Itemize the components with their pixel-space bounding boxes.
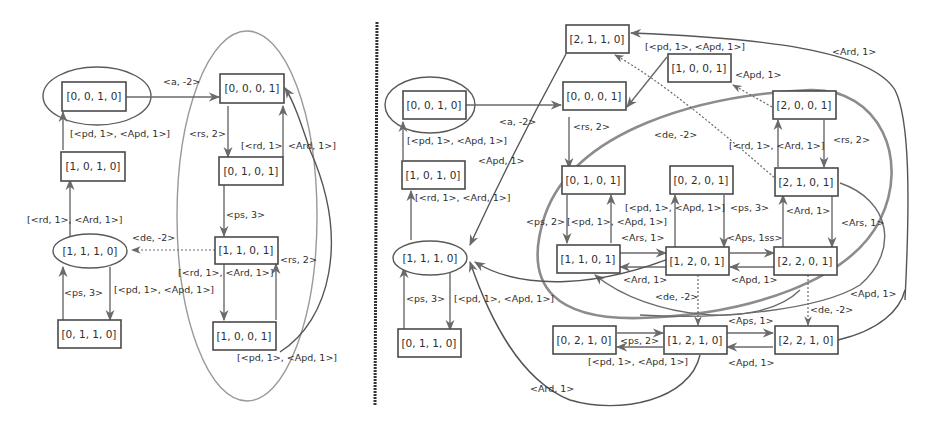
node-1001: [1, 0, 0, 1] [213,322,276,350]
node-1101-right: [1, 1, 0, 1] [557,245,620,273]
node-label: [2, 2, 0, 1] [778,255,833,267]
edge-label: <Apd, 1> [735,69,782,80]
node-0010: [0, 0, 1, 0] [62,82,126,111]
node-label: [1, 0, 0, 1] [217,330,272,342]
right-graph: [2, 1, 1, 0] [0, 0, 1, 0] [0, 0, 0, 1] [… [385,25,908,406]
node-0201: [0, 2, 0, 1] [670,166,733,194]
node-label: [2, 1, 1, 0] [570,33,625,45]
node-0101: [0, 1, 0, 1] [219,157,283,185]
edge-label: <de, -2> [655,291,698,302]
edge-label: <Ars, 1> [621,232,664,243]
node-0110-right: [0, 1, 1, 0] [398,329,461,357]
node-1010: [1, 0, 1, 0] [61,152,125,181]
edge-label: <ps, 2> [620,335,659,346]
edge-label: [<rd, 1> [241,140,282,151]
left-graph: [0, 0, 1, 0] [0, 0, 0, 1] [1, 0, 1, 0] [… [27,31,337,401]
node-0001-right: [0, 0, 0, 1] [563,82,626,110]
node-label: [0, 0, 1, 0] [407,99,462,111]
edge-label: [<pd, 1>, <Apd, 1>] [625,202,725,213]
node-label: [1, 0, 0, 1] [672,62,727,74]
node-1010-right: [1, 0, 1, 0] [402,161,465,189]
edge-label: <Ard, 1>] [288,140,336,151]
node-1110: [1, 1, 1, 0] [53,234,127,268]
edge-label: <rs, 2> [833,134,870,145]
edge-1001-0001 [627,57,667,107]
node-1210: [1, 2, 1, 0] [664,326,727,354]
node-label: [0, 1, 0, 1] [224,165,279,177]
edge-label: <Aps, 1ss> [727,232,782,243]
edge-label: [<pd, 1>, <Apd, 1>] [407,135,507,146]
edge-label: [<rd, 1>, <Ard, 1>] [729,140,825,151]
node-0110: [0, 1, 1, 0] [58,320,121,348]
node-label: [0, 2, 1, 0] [557,334,612,346]
node-label: [1, 1, 1, 0] [63,245,118,257]
edge-label: <Apd, 1> [731,274,778,285]
edge-label: <ps, 2> [526,216,565,227]
node-2101: [2, 1, 0, 1] [775,168,838,196]
edge-label: <Ard, 1> [786,205,830,216]
node-label: [0, 2, 0, 1] [674,174,729,186]
edge-label: <Apd, 1> [478,155,525,166]
edge-label: [<rd, 1>, <Ard, 1>] [27,214,123,225]
node-0101-right: [0, 1, 0, 1] [562,166,625,194]
edge-label: <Aps, 1> [728,315,773,326]
edge-label: <rs, 2> [280,254,317,265]
edge-label: <ps, 3> [64,287,103,298]
edge-label: [<pd, 1>, <Apd, 1>] [114,284,214,295]
edge-label: [<pd, 1>, <Apd, 1>] [567,216,667,227]
edge-label: <de, -2> [654,129,697,140]
edge-label: <ps, 3> [226,209,265,220]
edge-label: <Ard, 1> [832,46,876,57]
edge-label: [<pd, 1>, <Apd, 1>] [237,352,337,363]
edge-label: <de, -2> [132,232,175,243]
edge-label: <Ars, 1> [841,217,884,228]
node-0210: [0, 2, 1, 0] [553,326,616,354]
node-1001-right: [1, 0, 0, 1] [668,54,731,82]
edge-label: [<pd, 1>, <Apd, 1>] [645,41,745,52]
node-label: [0, 1, 1, 0] [62,328,117,340]
node-2201: [2, 2, 0, 1] [774,247,837,275]
node-label: [0, 1, 0, 1] [566,174,621,186]
node-label: [1, 1, 1, 0] [403,252,458,264]
state-transition-diagram: [0, 0, 1, 0] [0, 0, 0, 1] [1, 0, 1, 0] [… [0,0,939,433]
edge-label: <a, -2> [499,116,536,127]
node-label: [1, 2, 1, 0] [668,334,723,346]
edge-label: <a, -2> [163,76,200,87]
edge-1001-0001 [280,88,331,352]
node-label: [2, 2, 1, 0] [779,334,834,346]
edge-label: <ps, 3> [406,293,445,304]
node-label: [1, 2, 0, 1] [670,255,725,267]
divider-line [375,22,377,405]
node-2210: [2, 2, 1, 0] [775,326,838,354]
node-label: [2, 0, 0, 1] [777,99,832,111]
node-label: [0, 0, 0, 1] [225,82,280,94]
edge-label: [<rd, 1>, <Ard, 1>] [178,267,274,278]
node-label: [2, 1, 0, 1] [779,176,834,188]
node-label: [0, 1, 1, 0] [402,337,457,349]
node-label: [1, 1, 0, 1] [561,253,616,265]
node-1110-right: [1, 1, 1, 0] [393,241,467,275]
edge-label: [<pd, 1>, <Apd, 1>] [70,128,170,139]
node-label: [1, 0, 1, 0] [66,160,121,172]
node-1101: [1, 1, 0, 1] [215,237,278,264]
node-2110: [2, 1, 1, 0] [566,25,629,53]
edge-label: <rs, 2> [189,128,226,139]
node-1201: [1, 2, 0, 1] [666,247,729,275]
node-label: [0, 0, 1, 0] [67,90,122,102]
edge-label: <de, -2> [810,304,853,315]
edge-label: <ps, 3> [730,202,769,213]
node-2001: [2, 0, 0, 1] [773,91,836,119]
edge-label: [<rd, 1>, <Ard, 1>] [415,192,511,203]
edge-label: <Apd, 1> [728,357,775,368]
node-0001: [0, 0, 0, 1] [220,74,284,103]
edge-label: <Apd, 1> [850,288,897,299]
edge-label: <rs, 2> [573,121,610,132]
node-label: [0, 0, 0, 1] [567,90,622,102]
edge-label: <Ard, 1> [623,274,667,285]
edge-label: [<pd, 1>, <Apd, 1>] [454,293,554,304]
edge-label: <Ard, 1> [530,383,574,394]
node-0010-right: [0, 0, 1, 0] [403,91,466,119]
node-label: [1, 0, 1, 0] [406,169,461,181]
edge-label: [<pd, 1>, <Apd, 1>] [588,356,688,367]
node-label: [1, 1, 0, 1] [219,244,274,256]
